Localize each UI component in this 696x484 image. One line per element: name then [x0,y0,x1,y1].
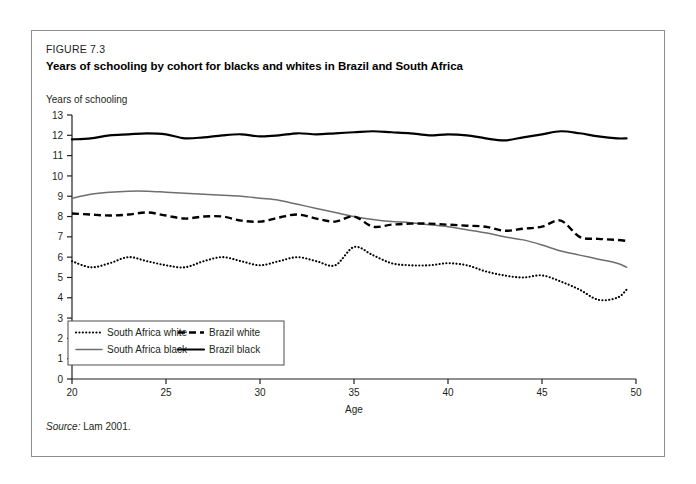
series-line-0 [72,247,627,301]
x-tick-label: 40 [442,387,454,398]
x-tick-label: 25 [160,387,172,398]
series-line-2 [72,212,627,240]
legend-label-0: South Africa white [107,327,187,338]
y-tick-label: 9 [57,191,63,202]
x-tick-label: 35 [348,387,360,398]
y-tick-label: 3 [57,313,63,324]
figure-root: FIGURE 7.3 Years of schooling by cohort … [0,0,696,484]
x-tick-label: 20 [66,387,78,398]
y-tick-label: 1 [57,353,63,364]
legend-label-2: South Africa black [107,344,188,355]
series-group [72,131,627,300]
y-tick-label: 4 [57,292,63,303]
y-tick-label: 8 [57,211,63,222]
chart-plot: 01234567891011121320253035404550Age Sout… [32,31,666,458]
y-tick-label: 10 [52,171,64,182]
x-tick-label: 30 [254,387,266,398]
y-tick-label: 11 [53,150,64,161]
y-tick-label: 5 [57,272,63,283]
x-axis-title: Age [345,404,363,415]
y-tick-label: 12 [52,130,64,141]
source-label: Source: [46,421,80,432]
legend-group: South Africa whiteBrazil whiteSouth Afri… [68,321,284,365]
x-tick-label: 45 [536,387,548,398]
x-tick-label: 50 [630,387,642,398]
series-line-3 [72,131,627,140]
series-line-1 [72,191,627,267]
y-tick-label: 13 [52,110,64,121]
y-tick-label: 2 [57,333,63,344]
y-tick-label: 7 [57,231,63,242]
legend-label-3: Brazil black [209,344,261,355]
legend-label-1: Brazil white [209,327,261,338]
y-tick-label: 0 [57,374,63,385]
figure-border-box: FIGURE 7.3 Years of schooling by cohort … [31,30,665,457]
source-note: Source: Lam 2001. [46,421,131,432]
y-tick-label: 6 [57,252,63,263]
source-text: Lam 2001. [83,421,130,432]
axes-group: 01234567891011121320253035404550Age [52,110,642,415]
